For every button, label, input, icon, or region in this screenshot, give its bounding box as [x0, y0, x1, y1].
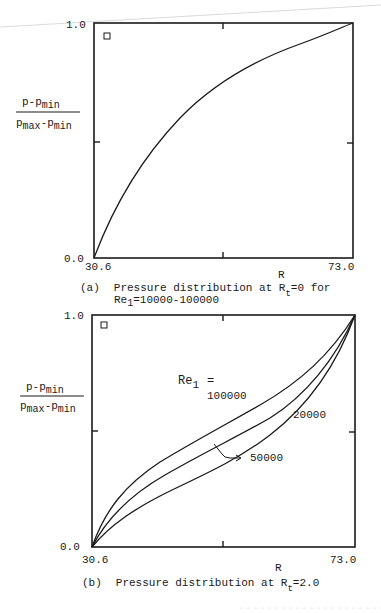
x-tick-30.6-b: 30.6 [82, 554, 108, 566]
label-100000: 100000 [207, 390, 247, 402]
x-tick-73.0-a: 73.0 [328, 261, 354, 273]
x-axis-label-a: R [278, 269, 285, 281]
x-axis-label-b: R [275, 562, 282, 574]
caption-b: (b)Pressure distribution at Rt=2.0 [82, 577, 319, 594]
y-tick-1.0-a: 1.0 [66, 19, 86, 31]
curve-20000 [92, 315, 355, 547]
x-tick-30.6-a: 30.6 [85, 261, 111, 273]
svg-text:(b)Pressure distribution at Rt: (b)Pressure distribution at Rt=2.0 [82, 577, 319, 594]
legend-square-marker-a [104, 33, 110, 39]
figure: 1.0 0.0 30.6 73.0 R p-pmin pmax-pmin (a)… [0, 0, 381, 613]
svg-text:p-pmin: p-pmin [22, 96, 60, 111]
y-tick-0.0-b: 0.0 [60, 541, 80, 553]
plot-frame-a [94, 23, 353, 258]
annotation-re1: Re1= [178, 374, 214, 391]
x-tick-73.0-b: 73.0 [330, 554, 356, 566]
curve-a [94, 23, 353, 258]
svg-text:pmax-pmin: pmax-pmin [16, 117, 72, 132]
y-tick-1.0-b: 1.0 [64, 310, 84, 322]
legend-square-marker-b [101, 322, 107, 328]
svg-text:Re1=10000-100000: Re1=10000-100000 [114, 294, 219, 309]
label-50000: 50000 [250, 452, 283, 464]
panel-b: Re1= 100000 20000 50000 1.0 0.0 30.6 73.… [20, 310, 356, 594]
svg-text:p-pmin: p-pmin [26, 381, 64, 396]
svg-text:pmax-pmin: pmax-pmin [20, 400, 76, 415]
label-20000: 20000 [293, 409, 326, 421]
caption-a: (a)Pressure distribution at Rt=0 for Re1… [80, 282, 330, 309]
y-axis-label-b: p-pmin pmax-pmin [20, 381, 84, 415]
y-axis-label-a: p-pmin pmax-pmin [16, 96, 80, 132]
y-tick-0.0-a: 0.0 [64, 253, 84, 265]
panel-a: 1.0 0.0 30.6 73.0 R p-pmin pmax-pmin (a)… [16, 19, 354, 309]
